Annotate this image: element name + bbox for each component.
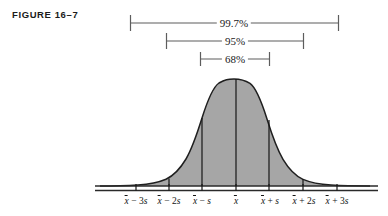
x-bar-symbol: x — [261, 196, 265, 206]
axis-label-plus-1s: x + s — [261, 196, 279, 206]
axis-label-plus-3s: x + 3s — [326, 196, 349, 206]
x-bar-symbol: x — [293, 196, 297, 206]
axis-label-minus-3s: x − 3s — [125, 196, 148, 206]
bracket-label-68: 68% — [222, 53, 248, 65]
axis-label-minus-2s: x − 2s — [158, 196, 181, 206]
distribution-diagram — [0, 0, 388, 216]
axis-label-minus-1s-unit: s — [207, 196, 211, 206]
x-bar-symbol: x — [193, 196, 197, 206]
axis-label-plus-3s-op: + 3 — [330, 196, 345, 206]
axis-label-plus-2s: x + 2s — [293, 196, 316, 206]
axis-label-plus-3s-unit: s — [345, 196, 349, 206]
x-bar-symbol: x — [326, 196, 330, 206]
axis-label-mean: x — [234, 196, 238, 206]
x-bar-symbol: x — [158, 196, 162, 206]
axis-label-minus-2s-op: − 2 — [162, 196, 177, 206]
axis-label-plus-2s-unit: s — [312, 196, 316, 206]
figure-normal-distribution: FIGURE 16–7 — [0, 0, 388, 216]
axis-label-plus-2s-op: + 2 — [297, 196, 312, 206]
axis-label-plus-1s-unit: s — [275, 196, 279, 206]
x-bar-symbol: x — [125, 196, 129, 206]
x-bar-symbol: x — [234, 196, 238, 206]
bell-curve-area — [100, 79, 370, 186]
axis-label-minus-1s-op: − — [197, 196, 207, 206]
axis-label-minus-2s-unit: s — [177, 196, 181, 206]
axis-label-minus-1s: x − s — [193, 196, 211, 206]
axis-label-plus-1s-op: + — [265, 196, 275, 206]
bracket-label-95: 95% — [222, 35, 248, 47]
axis-label-minus-3s-unit: s — [144, 196, 148, 206]
axis-label-minus-3s-op: − 3 — [129, 196, 144, 206]
bracket-label-99-7: 99.7% — [217, 17, 251, 29]
